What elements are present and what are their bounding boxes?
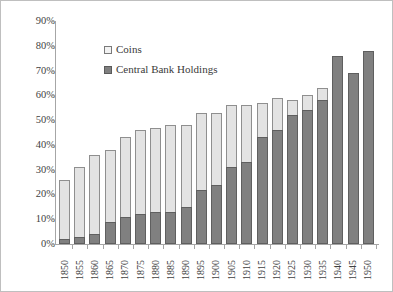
legend-item: Central Bank Holdings [104,61,304,78]
y-axis-tick-label: 50% [9,115,55,126]
bar-segment-central-bank-holdings [135,214,146,244]
x-axis-tick: 1860 [87,245,102,292]
bar-segment-central-bank-holdings [120,217,131,244]
bar-group [57,21,72,244]
x-axis-tick-label: 1865 [105,260,115,280]
bar-segment-central-bank-holdings [302,110,313,244]
x-axis-tick: 1890 [179,245,194,292]
bar-segment-central-bank-holdings [59,239,70,244]
chart-legend: CoinsCentral Bank Holdings [104,41,304,81]
x-axis-tick-label: 1920 [272,260,282,280]
x-axis-tick-label: 1910 [242,260,252,280]
bar-segment-central-bank-holdings [257,137,268,244]
bar-segment-coins [120,137,131,216]
stacked-bar [59,180,70,244]
x-axis-tick: 1920 [270,245,285,292]
bar-segment-central-bank-holdings [272,130,283,244]
stacked-bar [150,128,161,244]
bar-segment-coins [302,95,313,110]
x-axis-tick-label: 1905 [227,260,237,280]
x-axis-tick: 1870 [118,245,133,292]
y-axis-tick-label: 0% [9,239,55,250]
legend-item: Coins [104,41,304,58]
stacked-bar [226,105,237,244]
bar-group [87,21,102,244]
bar-segment-coins [272,98,283,130]
bar-segment-central-bank-holdings [196,190,207,245]
y-axis-tick-label: 20% [9,189,55,200]
bar-segment-central-bank-holdings [150,212,161,244]
y-axis-tick-label: 10% [9,214,55,225]
stacked-bar [363,51,374,244]
bar-segment-coins [105,150,116,222]
x-axis-tick-label: 1885 [166,260,176,280]
x-axis-tick-label: 1930 [303,260,313,280]
bar-segment-coins [181,125,192,207]
bar-segment-central-bank-holdings [348,73,359,244]
stacked-bar [257,103,268,244]
x-axis-tick-label: 1935 [318,260,328,280]
bar-segment-central-bank-holdings [317,100,328,244]
stacked-bar [181,125,192,244]
x-axis-tick: 1915 [254,245,269,292]
stacked-bar [105,150,116,244]
x-axis-tick: 1880 [148,245,163,292]
bar-group [361,21,376,244]
x-axis-tick-label: 1925 [287,260,297,280]
stacked-bar [196,113,207,244]
bar-segment-coins [241,105,252,162]
x-axis-tick: 1950 [361,245,376,292]
bar-segment-coins [257,103,268,138]
bar-segment-coins [211,113,222,185]
stacked-bar [165,125,176,244]
bar-segment-central-bank-holdings [89,234,100,244]
bar-segment-coins [165,125,176,212]
bar-group [315,21,330,244]
bar-segment-coins [150,128,161,212]
bar-group [330,21,345,244]
x-axis-tick-label: 1945 [348,260,358,280]
light-square-swatch [104,46,112,54]
stacked-bar-chart: 90%80%70%60%50%40%30%20%10%0% 1850185518… [0,0,393,292]
bar-segment-coins [317,88,328,100]
x-axis-tick: 1850 [57,245,72,292]
x-axis-tick: 1855 [72,245,87,292]
x-axis-tick-label: 1875 [136,260,146,280]
x-axis-tick-label: 1895 [196,260,206,280]
x-axis-tick-label: 1870 [120,260,130,280]
x-axis-tick-label: 1855 [75,260,85,280]
x-axis-tick: 1930 [300,245,315,292]
stacked-bar [272,98,283,244]
x-axis-tick: 1935 [315,245,330,292]
y-axis-tick-label: 40% [9,140,55,151]
stacked-bar [135,130,146,244]
x-axis-tick: 1900 [209,245,224,292]
x-axis-tick: 1875 [133,245,148,292]
bar-segment-coins [89,155,100,234]
stacked-bar [317,88,328,244]
y-axis-tick-label: 60% [9,90,55,101]
y-axis: 90%80%70%60%50%40%30%20%10%0% [1,1,55,292]
x-axis-tick-label: 1860 [90,260,100,280]
stacked-bar [120,137,131,244]
stacked-bar [211,113,222,244]
bar-segment-coins [226,105,237,167]
bar-segment-central-bank-holdings [332,56,343,244]
bar-segment-coins [196,113,207,190]
x-axis-tick-label: 1940 [333,260,343,280]
x-axis-tick-label: 1890 [181,260,191,280]
x-axis-tick-mark [376,245,377,249]
bar-group [346,21,361,244]
bar-segment-coins [135,130,146,214]
bar-segment-central-bank-holdings [287,115,298,244]
bar-segment-central-bank-holdings [211,185,222,244]
x-axis-tick-label: 1880 [151,260,161,280]
y-axis-tick-label: 80% [9,41,55,52]
stacked-bar [348,73,359,244]
x-axis-tick-label: 1950 [363,260,373,280]
stacked-bar [89,155,100,244]
dark-square-swatch [104,66,112,74]
x-axis-tick-label: 1850 [60,260,70,280]
stacked-bar [302,95,313,244]
bar-segment-central-bank-holdings [226,167,237,244]
